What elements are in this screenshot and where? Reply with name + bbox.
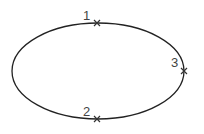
- ellipse-diagram: 1 2 3: [0, 0, 204, 134]
- point-label: 2: [83, 104, 90, 119]
- point-3: 3: [171, 55, 187, 74]
- point-label: 1: [83, 8, 90, 23]
- point-label: 3: [171, 55, 178, 70]
- ellipse: [12, 23, 184, 119]
